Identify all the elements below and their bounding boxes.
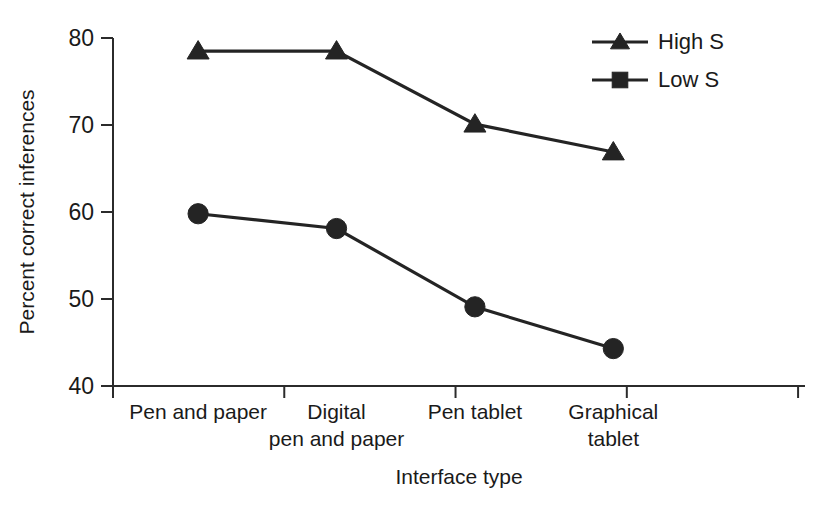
data-series	[188, 204, 623, 359]
data-series	[187, 41, 624, 160]
line-chart: 4050607080 Pen and paperDigitalpen and p…	[0, 0, 828, 512]
x-axis-title: Interface type	[395, 465, 522, 488]
x-tick-label: Pen and paper	[129, 400, 267, 423]
data-point-marker	[612, 72, 628, 88]
series-line	[198, 214, 613, 349]
data-point-marker	[465, 297, 485, 317]
y-tick-group: 4050607080	[68, 25, 113, 399]
x-axis-group: Pen and paperDigitalpen and paperPen tab…	[113, 386, 805, 450]
y-tick-label: 80	[68, 25, 94, 51]
data-series-group	[187, 41, 624, 359]
data-point-marker	[603, 338, 623, 358]
x-tick-label: Pen tablet	[428, 400, 523, 423]
chart-container: 4050607080 Pen and paperDigitalpen and p…	[0, 0, 828, 512]
x-tick-label: Digitalpen and paper	[269, 400, 404, 450]
data-point-marker	[326, 218, 346, 238]
series-line	[198, 51, 613, 152]
data-point-marker	[464, 114, 486, 132]
legend-label: Low S	[658, 67, 719, 92]
chart-legend: High SLow S	[592, 29, 724, 92]
y-tick-label: 50	[68, 286, 94, 312]
legend-item[interactable]: Low S	[592, 67, 719, 92]
y-tick-label: 70	[68, 112, 94, 138]
x-tick-group: Pen and paperDigitalpen and paperPen tab…	[113, 386, 798, 450]
data-point-marker	[188, 204, 208, 224]
y-tick-label: 40	[68, 373, 94, 399]
y-axis-group: 4050607080	[68, 25, 113, 399]
x-tick-label: Graphicaltablet	[568, 400, 658, 450]
y-tick-label: 60	[68, 199, 94, 225]
legend-item[interactable]: High S	[592, 29, 724, 54]
y-axis-title: Percent correct inferences	[15, 89, 38, 334]
legend-label: High S	[658, 29, 724, 54]
